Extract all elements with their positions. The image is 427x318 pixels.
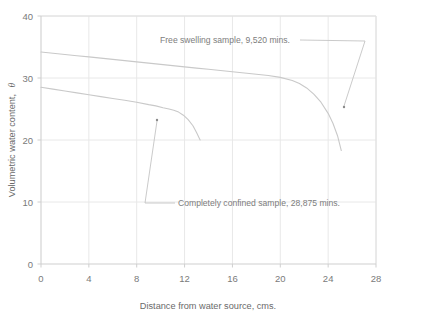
y-axis-title-text: Volumetric water content,	[7, 94, 17, 197]
y-axis-title: Volumetric water content, θ	[7, 82, 17, 197]
x-tick-label: 20	[275, 273, 286, 284]
annotation-marker-1	[156, 119, 158, 121]
x-tick-label: 8	[134, 273, 139, 284]
y-tick-label: 10	[22, 197, 33, 208]
completely-confined-label: Completely confined sample, 28,875 mins.	[178, 198, 340, 208]
x-tick-label: 28	[371, 273, 382, 284]
y-tick-label: 20	[22, 135, 33, 146]
y-axis-title-group: Volumetric water content, θ	[7, 82, 17, 197]
free-swelling-label: Free swelling sample, 9,520 mins.	[160, 35, 290, 45]
y-tick-label: 0	[28, 259, 33, 270]
x-tick-label: 4	[86, 273, 91, 284]
x-tick-label: 12	[179, 273, 190, 284]
y-tick-label: 40	[22, 11, 33, 22]
volumetric-water-content-chart: 0481216202428 010203040 Free swelling sa…	[0, 0, 427, 318]
x-tick-label: 0	[38, 273, 43, 284]
y-tick-label: 30	[22, 73, 33, 84]
x-tick-label: 24	[323, 273, 334, 284]
x-axis-title: Distance from water source, cms.	[140, 301, 276, 311]
annotation-marker-0	[343, 106, 345, 108]
x-tick-label: 16	[227, 273, 238, 284]
y-axis-theta-symbol: θ	[7, 82, 17, 87]
